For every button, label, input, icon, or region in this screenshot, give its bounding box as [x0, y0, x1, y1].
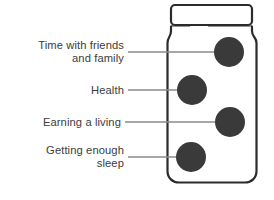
item-label-time-with-friends-and-family: Time with friends and family	[4, 39, 124, 65]
item-dot-4	[176, 142, 206, 172]
item-label-getting-enough-sleep: Getting enough sleep	[4, 144, 124, 170]
jar-diagram-graphic	[0, 0, 274, 200]
jar-diagram-canvas: Time with friends and family Health Earn…	[0, 0, 274, 200]
item-label-earning-a-living: Earning a living	[4, 116, 121, 129]
item-dot-3	[215, 107, 245, 137]
jar-lid-icon	[171, 5, 252, 25]
item-dot-2	[177, 75, 207, 105]
item-label-health: Health	[4, 84, 124, 97]
item-dot-1	[214, 37, 244, 67]
